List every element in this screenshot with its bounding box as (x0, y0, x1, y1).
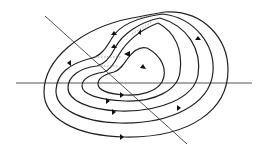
arrow-icon (124, 51, 130, 57)
arrow-icon (140, 64, 146, 69)
orbit-2 (56, 14, 213, 123)
arrow-icon (120, 92, 124, 98)
arrow-icon (120, 134, 124, 140)
orbit-3 (68, 18, 199, 111)
orbit-outer (44, 12, 228, 137)
arrow-icon (67, 60, 71, 66)
arrow-icon (106, 98, 110, 104)
arrow-icon (195, 36, 201, 40)
orbit-inner (98, 47, 164, 95)
phase-portrait-diagram (0, 0, 264, 151)
arrow-icon (112, 109, 116, 115)
arrow-icon (177, 105, 181, 111)
